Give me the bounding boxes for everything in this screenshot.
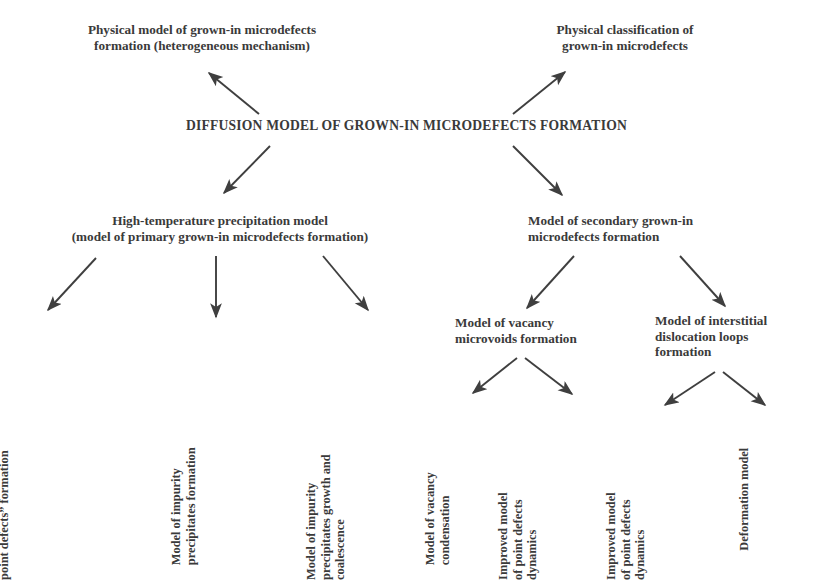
edge-high-temperature-to-complexes bbox=[48, 258, 96, 310]
edge-root-to-physical-classification bbox=[513, 72, 565, 114]
node-physical-model-of-grown-in-microdefects-formation: Physical model of grown-in microdefects … bbox=[52, 22, 352, 53]
node-model-of-interstitial-dislocation-loops-formation: Model of interstitial dislocation loops … bbox=[655, 313, 813, 360]
edge-secondary-to-vacancy-microvoids bbox=[527, 256, 574, 308]
node-model-of-complexes-impurity-intrinsic-point-defects-formation: Model of complexes “impurity + intrinsic… bbox=[0, 380, 12, 580]
node-improved-model-of-point-defects-dynamics-interstitial-branch: Improved model of point defects dynamics bbox=[604, 430, 648, 580]
node-model-of-impurity-precipitates-growth-and-coalescence: Model of impurity precipitates growth an… bbox=[304, 380, 348, 580]
edge-secondary-to-interstitial-loops bbox=[680, 256, 725, 306]
node-model-of-impurity-precipitates-formation: Model of impurity precipitates formation bbox=[169, 365, 198, 565]
node-model-of-secondary-grown-in-microdefects-formation: Model of secondary grown-in microdefects… bbox=[528, 213, 778, 244]
edge-vacancy-microvoids-to-vacancy-condensation bbox=[473, 358, 517, 393]
node-model-of-vacancy-microvoids-formation: Model of vacancy microvoids formation bbox=[455, 315, 640, 346]
edge-interstitial-loops-to-improved-right bbox=[665, 372, 715, 405]
node-model-of-vacancy-condensation: Model of vacancy condensation bbox=[423, 415, 452, 565]
node-high-temperature-precipitation-model: High-temperature precipitation model (mo… bbox=[20, 213, 420, 244]
edge-root-to-physical-model bbox=[209, 73, 259, 114]
node-deformation-model: Deformation model bbox=[737, 401, 752, 551]
node-physical-classification-of-grown-in-microdefects: Physical classification of grown-in micr… bbox=[510, 22, 740, 53]
edge-vacancy-microvoids-to-improved-left bbox=[525, 358, 572, 394]
edge-root-to-high-temperature bbox=[224, 146, 270, 193]
diagram-root-title: DIFFUSION MODEL OF GROWN-IN MICRODEFECTS… bbox=[0, 118, 813, 134]
node-improved-model-of-point-defects-dynamics-vacancy-branch: Improved model of point defects dynamics bbox=[496, 430, 540, 580]
edge-high-temperature-to-impurity-growth bbox=[323, 256, 368, 310]
edge-root-to-secondary bbox=[513, 146, 562, 195]
